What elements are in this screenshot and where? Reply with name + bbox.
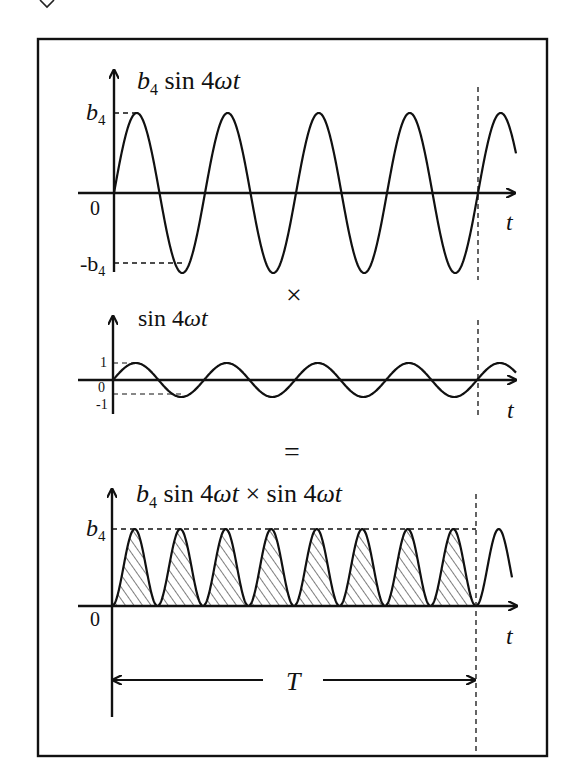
bottom-ylabel-zero: 0: [90, 608, 100, 630]
top-ylabel-zero: 0: [90, 197, 100, 219]
equals-operator: =: [284, 436, 300, 467]
bottom-xlabel: t: [506, 623, 514, 649]
fourier-product-diagram: b4 sin 4ωt b4 0 -b4 t × sin 4ωt 1 0 -1 t…: [0, 0, 566, 779]
middle-title: sin 4ωt: [138, 305, 209, 331]
chevron-down-icon: [40, 0, 54, 7]
panel-top: b4 sin 4ωt b4 0 -b4 t: [78, 66, 516, 280]
times-operator: ×: [286, 279, 302, 310]
panel-middle: sin 4ωt 1 0 -1 t: [78, 305, 516, 423]
top-ylabel-max: b4: [86, 99, 106, 128]
bottom-product-curve-tail: [476, 529, 512, 606]
middle-ylabel-zero: 0: [98, 380, 105, 395]
middle-ylabel-min: -1: [96, 397, 108, 412]
panel-bottom: b4 sin 4ωt × sin 4ωt b4 0 t T: [78, 479, 517, 756]
period-label: T: [286, 667, 302, 696]
bottom-ylabel-max: b4: [86, 515, 106, 544]
bottom-shaded-area: [112, 529, 476, 606]
top-ylabel-min: -b4: [80, 251, 105, 279]
bottom-title: b4 sin 4ωt × sin 4ωt: [136, 479, 343, 511]
middle-ylabel-max: 1: [100, 355, 107, 370]
top-title: b4 sin 4ωt: [137, 66, 241, 98]
top-xlabel: t: [506, 209, 514, 235]
middle-xlabel: t: [507, 397, 515, 423]
